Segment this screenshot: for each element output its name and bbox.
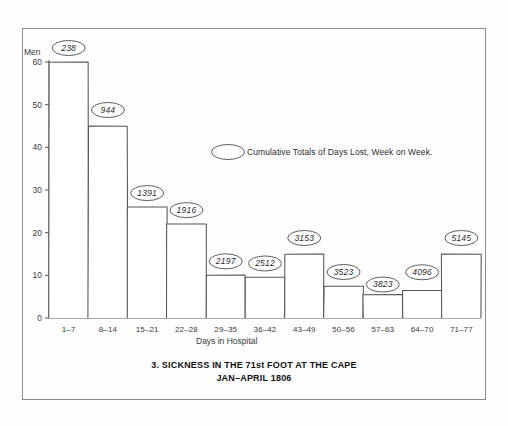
y-tick-label: 10 [22,270,42,280]
annotation-value: 238 [45,43,93,53]
bar [206,275,245,318]
bar [441,254,481,318]
y-tick-label: 60 [22,57,42,67]
bar [127,207,167,318]
y-tick-label: 50 [22,100,42,110]
y-tick-label: 30 [22,185,42,195]
y-tick-label: 40 [22,142,42,152]
legend-label: Cumulative Totals of Days Lost, Week on … [247,147,432,157]
bar [167,224,207,318]
chart-title: 3. SICKNESS IN THE 71st FOOT AT THE CAPE [0,360,508,370]
legend-bubble-icon [212,145,245,160]
y-tick-label: 0 [22,313,42,323]
bar [403,290,442,318]
annotation-value: 3153 [280,233,328,243]
annotation-value: 944 [84,105,132,115]
annotation-value: 2512 [241,258,289,268]
chart-subtitle: JAN–APRIL 1806 [0,373,508,383]
annotation-value: 1916 [162,205,210,215]
bar [324,286,364,318]
bar [88,126,128,318]
annotation-value: 3523 [320,267,368,277]
bar [245,277,285,318]
y-tick-label: 20 [22,228,42,238]
y-axis-title: Men [24,47,41,57]
annotation-value: 4096 [398,267,446,277]
legend-marker [212,145,245,160]
annotation-value: 3823 [359,279,407,289]
bar [285,254,324,318]
x-axis-title: Days in Hospital [196,336,257,346]
annotation-value: 1391 [123,188,171,198]
x-tick-label: 71–77 [436,325,487,334]
bar [363,294,403,318]
annotation-value: 5145 [437,233,485,243]
bar [49,62,89,318]
